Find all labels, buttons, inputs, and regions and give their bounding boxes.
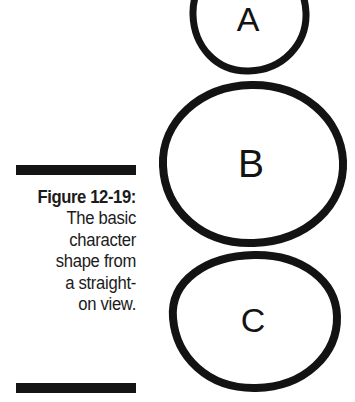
shape-c-group: C xyxy=(173,255,337,388)
shape-b-group: B xyxy=(163,85,343,243)
circle-a-letter: A xyxy=(237,0,260,38)
character-shape-diagram: A B C xyxy=(0,0,355,402)
circle-c-letter: C xyxy=(241,301,266,339)
diagram-canvas: A B C xyxy=(0,0,355,402)
figure-container: Figure 12-19: The basic character shape … xyxy=(0,0,355,402)
circle-b-letter: B xyxy=(238,142,264,185)
shape-a-group: A xyxy=(193,0,306,71)
